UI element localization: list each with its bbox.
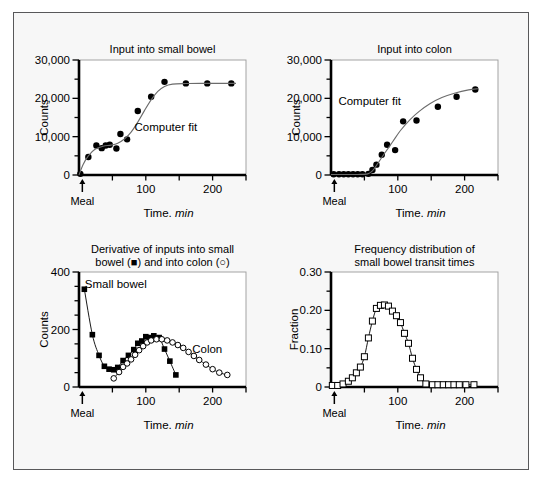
meal-label: Meal [322, 195, 346, 207]
data-point [164, 338, 170, 344]
chart-title: Frequency distribution ofsmall bowel tra… [354, 243, 475, 268]
y-axis-ticks: 0200400 [51, 266, 79, 393]
data-point [117, 131, 123, 137]
data-point [196, 357, 202, 363]
annotation: Computer fit [135, 121, 198, 133]
x-axis-ticks: 100200 [364, 175, 498, 195]
data-point [435, 104, 441, 110]
data-point [400, 118, 406, 124]
y-axis-label: Counts [38, 99, 50, 136]
data-point [453, 94, 459, 100]
data-point [397, 320, 403, 326]
data-point [216, 370, 222, 376]
svg-text:0.20: 0.20 [300, 304, 322, 316]
svg-text:0.30: 0.30 [300, 266, 322, 278]
annotation: Computer fit [338, 95, 401, 107]
y-axis-label: Counts [290, 99, 302, 136]
chart-input-colon: Input into colon010,00020,00030,00010020… [286, 27, 510, 217]
svg-text:0: 0 [316, 381, 322, 393]
x-axis-label: Time, min [143, 419, 193, 429]
meal-marker: Meal [322, 391, 346, 419]
chart-frequency-distribution: Frequency distribution ofsmall bowel tra… [286, 239, 510, 429]
data-point [186, 349, 192, 355]
data-point [154, 336, 160, 342]
svg-text:bowel (■) and into colon (○): bowel (■) and into colon (○) [95, 256, 229, 268]
svg-text:0: 0 [64, 381, 70, 393]
data-point [167, 358, 173, 364]
data-point [413, 117, 419, 123]
x-axis-ticks: 100200 [364, 387, 498, 407]
svg-text:30,000: 30,000 [35, 54, 70, 66]
data-point [161, 79, 167, 85]
svg-text:Fraction: Fraction [288, 309, 300, 351]
svg-text:Counts: Counts [38, 311, 50, 348]
x-axis-label: Time, min [143, 207, 193, 217]
meal-marker: Meal [70, 179, 94, 207]
svg-text:100: 100 [136, 395, 155, 407]
plot-area [79, 60, 246, 175]
svg-text:400: 400 [51, 266, 70, 278]
panel-input-small-bowel: Input into small bowel010,00020,00030,00… [34, 27, 258, 217]
data-point [471, 382, 477, 388]
svg-text:Time, min: Time, min [395, 207, 445, 217]
data-point [132, 352, 138, 358]
svg-text:100: 100 [388, 183, 407, 195]
svg-text:Frequency distribution of: Frequency distribution of [354, 243, 475, 255]
svg-text:Time, min: Time, min [143, 419, 193, 429]
annotation: Colon [192, 343, 222, 355]
svg-text:Input into colon: Input into colon [377, 43, 452, 55]
data-point [180, 345, 186, 351]
data-point [418, 375, 424, 381]
panel-frequency-distribution: Frequency distribution ofsmall bowel tra… [286, 239, 510, 429]
data-point [456, 382, 462, 388]
data-point [224, 372, 230, 378]
svg-text:0: 0 [316, 169, 322, 181]
panel-derivative-inputs: Derivative of inputs into smallbowel (■)… [34, 239, 258, 429]
meal-marker: Meal [322, 179, 346, 207]
data-point [353, 370, 359, 376]
chart-title: Derivative of inputs into smallbowel (■)… [91, 243, 234, 268]
data-point [401, 330, 407, 336]
data-point [369, 318, 375, 324]
data-point [365, 335, 371, 341]
data-point [393, 313, 399, 319]
figure-frame: Input into small bowel010,00020,00030,00… [13, 12, 529, 470]
svg-text:200: 200 [203, 395, 222, 407]
data-point [128, 357, 134, 363]
chart-derivative-inputs: Derivative of inputs into smallbowel (■)… [34, 239, 258, 429]
data-point [111, 376, 117, 382]
y-axis-ticks: 00.100.200.30 [300, 266, 331, 393]
svg-text:200: 200 [203, 183, 222, 195]
data-point [414, 366, 420, 372]
data-point [96, 353, 102, 359]
data-point [159, 336, 165, 342]
data-point [361, 354, 367, 360]
x-axis-ticks: 100200 [112, 175, 246, 195]
x-axis-ticks: 100200 [112, 387, 246, 407]
svg-text:200: 200 [455, 395, 474, 407]
data-point [409, 355, 415, 361]
data-point [463, 382, 469, 388]
data-point [210, 366, 216, 372]
panel-input-colon: Input into colon010,00020,00030,00010020… [286, 27, 510, 217]
svg-text:30,000: 30,000 [287, 54, 322, 66]
plot-area [331, 60, 498, 175]
x-axis-label: Time, min [395, 207, 445, 217]
chart-title: Input into colon [377, 43, 452, 55]
svg-text:100: 100 [388, 395, 407, 407]
meal-label: Meal [70, 195, 94, 207]
meal-label: Meal [70, 407, 94, 419]
x-axis-label: Time, min [395, 419, 445, 429]
data-point [357, 364, 363, 370]
svg-text:Time, min: Time, min [143, 207, 193, 217]
data-point [423, 381, 429, 387]
data-point [392, 147, 398, 153]
data-point [162, 346, 168, 352]
svg-text:100: 100 [136, 183, 155, 195]
svg-text:0: 0 [64, 169, 70, 181]
data-point [203, 362, 209, 368]
svg-text:Time, min: Time, min [395, 419, 445, 429]
y-axis-label: Counts [38, 311, 50, 348]
data-point [170, 340, 176, 346]
meal-marker: Meal [70, 391, 94, 419]
